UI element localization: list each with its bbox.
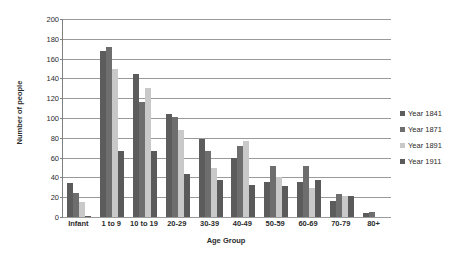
legend-item[interactable]: Year 1911	[400, 157, 442, 166]
bar	[369, 212, 375, 217]
legend-swatch-icon	[400, 127, 405, 132]
bar	[217, 180, 223, 217]
y-tick-label: 100	[46, 114, 59, 123]
x-tick-label: 10 to 19	[128, 219, 161, 228]
x-tick-label: 20-29	[160, 219, 193, 228]
y-tick-label: 120	[46, 94, 59, 103]
x-tick-label: 50-59	[259, 219, 292, 228]
legend-label: Year 1911	[408, 157, 441, 166]
legend-label: Year 1841	[408, 109, 442, 118]
x-tick-label: Infant	[62, 219, 95, 228]
bar	[151, 151, 157, 217]
bar-group	[96, 19, 129, 217]
y-tick-label: 80	[51, 133, 59, 142]
y-tick-label: 40	[51, 173, 59, 182]
bar	[315, 180, 321, 217]
y-tick-label: 140	[46, 74, 59, 83]
bar-group	[227, 19, 260, 217]
gridline	[63, 217, 391, 218]
bar-group	[63, 19, 96, 217]
bar-group	[194, 19, 227, 217]
bar-group	[129, 19, 162, 217]
legend-item[interactable]: Year 1891	[400, 141, 442, 150]
y-tick-label: 20	[51, 193, 59, 202]
y-axis-title: Number of people	[15, 53, 24, 173]
x-axis-tick-labels: Infant1 to 910 to 1920-2930-3940-4950-59…	[62, 219, 390, 228]
bar	[282, 186, 288, 217]
bar-group	[260, 19, 293, 217]
legend-swatch-icon	[400, 111, 405, 116]
y-tick-label: 0	[55, 213, 59, 222]
bar	[118, 151, 124, 217]
bar	[249, 185, 255, 217]
chart-legend: Year 1841Year 1871Year 1891Year 1911	[400, 109, 442, 166]
bar-series-container	[63, 19, 391, 217]
legend-label: Year 1871	[408, 125, 442, 134]
legend-swatch-icon	[400, 143, 405, 148]
legend-item[interactable]: Year 1871	[400, 125, 442, 134]
bar	[184, 174, 190, 217]
y-tick-label: 180	[46, 34, 59, 43]
bar-group	[358, 19, 391, 217]
x-tick-label: 1 to 9	[95, 219, 128, 228]
bar	[85, 216, 91, 217]
x-tick-label: 30-39	[193, 219, 226, 228]
y-tick-mark	[60, 217, 63, 218]
y-tick-label: 60	[51, 153, 59, 162]
bar-group	[293, 19, 326, 217]
x-axis-title: Age Group	[62, 236, 390, 245]
y-tick-label: 160	[46, 54, 59, 63]
x-tick-label: 60-69	[292, 219, 325, 228]
bar-group	[325, 19, 358, 217]
y-tick-label: 200	[46, 15, 59, 24]
bar	[348, 196, 354, 217]
plot-area: 020406080100120140160180200	[62, 19, 391, 218]
legend-swatch-icon	[400, 159, 405, 164]
x-tick-label: 80+	[357, 219, 390, 228]
x-tick-label: 40-49	[226, 219, 259, 228]
legend-item[interactable]: Year 1841	[400, 109, 442, 118]
legend-label: Year 1891	[408, 141, 442, 150]
bar-chart-figure: Number of people 02040608010012014016018…	[0, 0, 474, 272]
bar	[79, 202, 85, 217]
x-tick-label: 70-79	[324, 219, 357, 228]
bar-group	[161, 19, 194, 217]
